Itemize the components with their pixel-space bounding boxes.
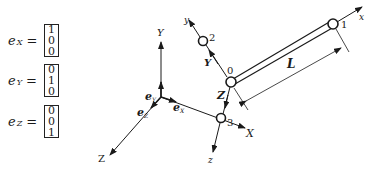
label-node-0: 0 — [227, 65, 233, 76]
label-global-X: X — [245, 127, 255, 140]
node-3 — [217, 114, 226, 123]
label-length-L: L — [286, 57, 295, 71]
label-member-Z: Z — [216, 89, 226, 102]
label-eX: e — [173, 101, 180, 114]
label-eY: e — [145, 90, 152, 103]
label-node-2: 2 — [209, 32, 215, 43]
coordinate-system-diagram: Y Z X e Y e X e Z x y z Y Z 0 1 2 3 L — [0, 0, 379, 170]
label-local-y: y — [183, 15, 190, 25]
node-2 — [199, 37, 208, 46]
local-z-axis-ext — [213, 123, 220, 152]
label-eZ: e — [137, 106, 144, 119]
label-node-1: 1 — [341, 19, 347, 30]
local-y-axis-ext — [189, 20, 200, 37]
nodes — [199, 19, 339, 123]
label-local-z: z — [207, 155, 213, 165]
label-global-Z: Z — [98, 153, 105, 164]
label-eX-sub: X — [179, 107, 185, 114]
label-node-3: 3 — [227, 117, 233, 128]
member-0-1 — [233, 21, 334, 84]
label-eZ-sub: Z — [143, 112, 149, 119]
label-member-Y: Y — [204, 57, 212, 68]
node-0 — [226, 77, 236, 87]
node-1 — [328, 19, 338, 29]
label-global-Y: Y — [157, 27, 165, 38]
local-z-arrow-member — [225, 95, 228, 108]
label-local-x: x — [359, 12, 364, 22]
